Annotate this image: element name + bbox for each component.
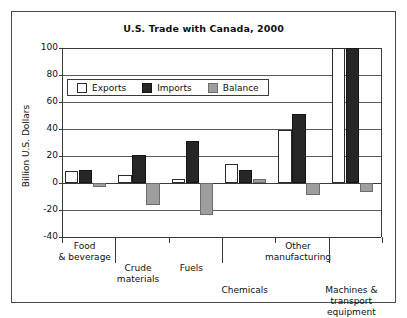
legend-swatch-balance-icon <box>208 83 218 93</box>
y-tick-mark--20 <box>59 210 63 211</box>
legend-swatch-exports-icon <box>77 83 87 93</box>
bar-imports-5 <box>346 48 360 183</box>
legend-label-balance: Balance <box>223 83 259 93</box>
x-axis-label-line: materials <box>93 274 182 285</box>
bar-balance-3 <box>253 179 267 183</box>
bar-balance-4 <box>306 183 320 195</box>
y-tick-mark-60 <box>59 102 63 103</box>
bar-exports-0 <box>65 171 79 183</box>
y-axis-label: Billion U.S. Dollars <box>21 71 31 221</box>
x-axis-label-line: transport <box>307 296 396 307</box>
x-tick-mark-5 <box>329 237 330 263</box>
chart-legend: ExportsImportsBalance <box>67 79 269 96</box>
bar-exports-3 <box>225 164 239 183</box>
legend-swatch-imports-icon <box>142 83 152 93</box>
y-tick-mark-20 <box>59 156 63 157</box>
bar-imports-3 <box>239 170 253 184</box>
y-tick-mark-80 <box>59 75 63 76</box>
y-tick-label-100: 100 <box>18 43 58 52</box>
bar-balance-5 <box>360 183 374 192</box>
bar-exports-4 <box>278 130 292 183</box>
bar-balance-2 <box>200 183 214 215</box>
bar-imports-0 <box>79 170 93 184</box>
x-axis-label-line: equipment <box>307 307 396 318</box>
y-tick-mark-100 <box>59 48 63 49</box>
y-tick-label-80: 80 <box>18 70 58 79</box>
legend-item-exports: Exports <box>77 83 126 93</box>
chart-title: U.S. Trade with Canada, 2000 <box>11 23 396 34</box>
bar-imports-4 <box>292 114 306 183</box>
x-tick-mark-end <box>382 237 383 243</box>
x-axis-label-line: Chemicals <box>200 285 289 296</box>
x-axis-label-line: Machines & <box>307 285 396 296</box>
y-tick-mark-40 <box>59 129 63 130</box>
legend-item-imports: Imports <box>142 83 192 93</box>
y-tick-label-40: 40 <box>18 124 58 133</box>
bar-imports-1 <box>132 155 146 183</box>
gridline--20 <box>63 210 381 211</box>
legend-item-balance: Balance <box>208 83 259 93</box>
y-tick-label--40: -40 <box>18 232 58 241</box>
bar-exports-5 <box>332 48 346 183</box>
bar-balance-1 <box>146 183 160 205</box>
bar-balance-0 <box>93 183 107 187</box>
bar-imports-2 <box>186 141 200 183</box>
x-tick-mark-1 <box>115 237 116 263</box>
plot-area <box>62 48 382 237</box>
y-tick-mark-0 <box>59 183 63 184</box>
y-tick-label--20: -20 <box>18 205 58 214</box>
x-tick-mark-2 <box>169 237 170 243</box>
x-tick-mark-3 <box>222 237 223 263</box>
x-axis-label-2: Fuels <box>147 263 236 274</box>
y-tick-label-60: 60 <box>18 97 58 106</box>
x-axis-label-line: Fuels <box>147 263 236 274</box>
bar-exports-1 <box>118 175 132 183</box>
y-tick-label-0: 0 <box>18 178 58 187</box>
x-axis-label-3: Chemicals <box>200 285 289 296</box>
legend-label-imports: Imports <box>157 83 192 93</box>
y-tick-label-20: 20 <box>18 151 58 160</box>
bar-exports-2 <box>172 179 186 183</box>
x-axis-label-5: Machines &transportequipment <box>307 285 396 318</box>
legend-label-exports: Exports <box>92 83 126 93</box>
